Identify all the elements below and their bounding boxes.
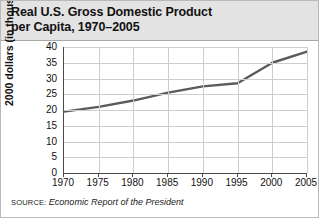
source-note: SOURCE: Economic Report of the President [11,197,183,207]
chart-figure: Real U.S. Gross Domestic Product per Cap… [0,0,319,218]
y-gridline [64,47,307,48]
y-gridline [64,142,307,143]
y-axis-tick-label: 20 [35,105,57,115]
y-axis-tick-label: 25 [35,89,57,99]
y-axis-label: 2000 dollars (in thousands) [3,0,15,106]
y-axis-tick-label: 10 [35,137,57,147]
y-gridline [64,126,307,127]
page-title: Real U.S. Gross Domestic Product per Cap… [11,5,311,35]
y-axis-tick-label: 40 [35,42,57,52]
y-gridline [64,157,307,158]
y-axis-tick-label: 35 [35,58,57,68]
y-gridline [64,79,307,80]
plot-area [63,47,307,174]
source-title: Economic Report of the President [49,197,184,207]
x-gridline [133,47,134,173]
y-gridline [64,94,307,95]
y-gridline [64,110,307,111]
x-gridline [203,47,204,173]
x-gridline [168,47,169,173]
y-gridline [64,63,307,64]
x-gridline [238,47,239,173]
y-axis-tick-label: 5 [35,152,57,162]
source-label: SOURCE: [11,198,49,207]
y-axis-tick-label: 15 [35,121,57,131]
x-gridline [272,47,273,173]
x-gridline [307,47,308,173]
x-axis-tick-label: 2005 [286,178,319,188]
x-gridline [99,47,100,173]
y-axis-tick-label: 30 [35,74,57,84]
